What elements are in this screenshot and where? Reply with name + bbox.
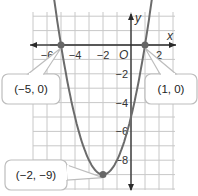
callout-label: (−5, 0) [14,83,48,95]
callouts: (−5, 0)(1, 0)(−2, −9) [2,48,197,190]
origin-label: O [119,48,128,62]
y-axis-arrow-down-icon [128,184,134,191]
callout: (−5, 0) [2,48,61,104]
callout: (−2, −9) [5,160,103,190]
callout: (1, 0) [145,48,197,104]
data-point [100,171,107,178]
x-tick-label: −4 [69,49,82,61]
tick-labels: −6−4−22−2−4−6−8 [41,49,162,166]
x-tick-label: −2 [97,49,110,61]
y-tick-label: −4 [115,97,128,109]
x-axis-label: x [166,29,174,43]
graph: −6−4−22−2−4−6−8 x y O (−5, 0)(1, 0)(−2, … [0,0,198,196]
data-point [58,42,65,49]
y-tick-label: −2 [115,68,128,80]
callout-label: (1, 0) [158,83,185,95]
data-point [142,42,149,49]
callout-label: (−2, −9) [16,169,56,181]
y-axis-label: y [134,11,142,25]
